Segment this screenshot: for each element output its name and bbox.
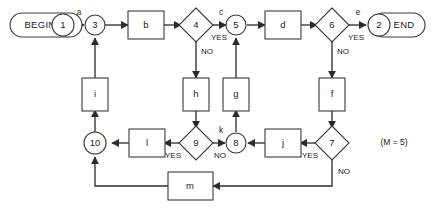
node-5-label: 5: [233, 19, 238, 30]
branch-label-7-yes: YES: [302, 151, 318, 160]
annotation-m-value: (M = 5): [380, 137, 407, 147]
terminator-begin-label: BEGIN: [24, 19, 55, 30]
process-m-label: m: [186, 180, 194, 191]
decision-9-label: 9: [193, 137, 198, 148]
edge-m-to-10: [95, 157, 168, 186]
branch-label-7-no: NO: [338, 167, 350, 176]
edge-label-a: a: [77, 8, 82, 17]
branch-label-6-no: NO: [337, 47, 349, 56]
process-d-label: d: [280, 19, 285, 30]
flowchart-canvas: BEGIN 1 3 b 4 5 d 6 END 2 i h g: [0, 0, 433, 212]
process-f-label: f: [331, 88, 334, 99]
edge-label-k: k: [219, 126, 224, 135]
process-i-label: i: [94, 88, 96, 99]
process-b-label: b: [143, 19, 148, 30]
branch-label-4-no: NO: [201, 47, 213, 56]
node-2-label: 2: [376, 19, 381, 30]
process-j-label: j: [281, 137, 284, 148]
branch-label-6-yes: YES: [348, 33, 364, 42]
branch-label-4-yes: YES: [211, 33, 227, 42]
process-g-label: g: [233, 88, 238, 99]
decision-6-label: 6: [329, 19, 334, 30]
process-l-label: l: [146, 137, 148, 148]
flowchart-svg: BEGIN 1 3 b 4 5 d 6 END 2 i h g: [0, 0, 433, 212]
decision-4-label: 4: [193, 19, 198, 30]
branch-label-9-yes: YES: [165, 151, 181, 160]
decision-7-label: 7: [329, 137, 334, 148]
process-h-label: h: [193, 88, 198, 99]
edge-label-c: c: [219, 8, 223, 17]
branch-label-9-no: NO: [214, 151, 226, 160]
node-3-label: 3: [92, 19, 97, 30]
node-1-label: 1: [60, 19, 65, 30]
node-10-label: 10: [90, 137, 101, 148]
terminator-end-label: END: [394, 19, 415, 30]
node-8-label: 8: [233, 137, 238, 148]
edge-7-no-to-m: [213, 158, 332, 186]
edge-label-e: e: [356, 8, 361, 17]
